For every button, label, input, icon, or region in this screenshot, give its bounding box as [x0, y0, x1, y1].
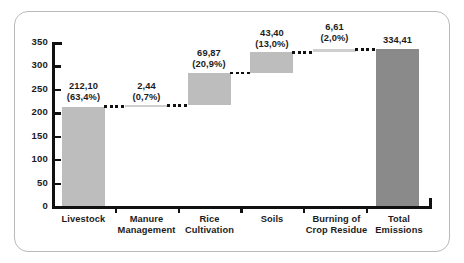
category-label-rice-line1: Rice — [176, 214, 243, 225]
category-label-burning-crop-residue: Burning of Crop Residue — [298, 214, 375, 236]
bar-soils — [250, 52, 293, 72]
bar-livestock — [62, 107, 105, 206]
value-label-burning-value: 6,61 — [325, 22, 344, 32]
category-label-total-line1: Total — [365, 214, 433, 225]
x-axis-end-cap — [429, 198, 432, 208]
y-axis-label-350: 350 — [12, 36, 48, 48]
value-label-burning-crop-residue: 6,61 (2,0%) — [304, 22, 365, 43]
y-tick-300 — [52, 65, 61, 67]
y-axis-label-0: 0 — [12, 200, 48, 212]
y-axis-label-250: 250 — [12, 83, 48, 95]
y-tick-50 — [52, 183, 61, 185]
value-label-livestock-percent: (63,4%) — [53, 92, 114, 103]
value-label-soils-percent: (13,0%) — [242, 39, 303, 50]
category-label-burning-line1: Burning of — [298, 214, 375, 225]
bar-manure-management — [125, 105, 168, 106]
value-label-soils: 43,40 (13,0%) — [242, 28, 303, 49]
category-label-manure-line1: Manure — [110, 214, 183, 225]
category-label-livestock: Livestock — [50, 214, 117, 225]
y-axis-label-50: 50 — [12, 177, 48, 189]
category-label-rice-line2: Cultivation — [176, 225, 243, 236]
value-label-manure-percent: (0,7%) — [116, 92, 177, 103]
value-label-manure-value: 2,44 — [137, 81, 156, 91]
value-label-livestock-value: 212,10 — [69, 81, 98, 91]
bar-total-emissions — [376, 49, 419, 206]
connector-livestock-to-manure — [104, 105, 126, 108]
value-label-livestock: 212,10 (63,4%) — [53, 81, 114, 102]
connector-manure-to-rice — [167, 104, 189, 107]
y-tick-200 — [52, 112, 61, 114]
y-axis-label-100: 100 — [12, 153, 48, 165]
x-tick-3 — [240, 206, 242, 213]
y-axis-label-150: 150 — [12, 130, 48, 142]
y-tick-100 — [52, 159, 61, 161]
x-tick-1 — [115, 206, 117, 213]
y-axis-label-300: 300 — [12, 59, 48, 71]
value-label-rice-value: 69,87 — [197, 48, 221, 58]
category-label-manure-line2: Management — [110, 225, 183, 236]
category-label-livestock-line1: Livestock — [50, 214, 117, 225]
bar-rice-cultivation — [188, 73, 231, 106]
category-label-total-line2: Emissions — [365, 225, 433, 236]
connector-rice-to-soils — [230, 72, 252, 75]
value-label-burning-percent: (2,0%) — [304, 33, 365, 44]
bar-burning-crop-residue — [313, 49, 356, 52]
category-label-burning-line2: Crop Residue — [298, 225, 375, 236]
waterfall-chart: 350 300 250 200 150 100 50 0 212,10 (63,… — [0, 0, 464, 263]
y-tick-150 — [52, 136, 61, 138]
x-tick-4 — [303, 206, 305, 213]
connector-burning-to-total — [355, 48, 377, 51]
value-label-rice-cultivation: 69,87 (20,9%) — [179, 48, 240, 69]
x-tick-2 — [178, 206, 180, 213]
category-label-soils-line1: Soils — [240, 214, 304, 225]
y-tick-350 — [52, 42, 61, 44]
connector-soils-to-burning — [292, 51, 314, 54]
category-label-total-emissions: Total Emissions — [365, 214, 433, 236]
value-label-soils-value: 43,40 — [260, 28, 284, 38]
category-label-soils: Soils — [240, 214, 304, 225]
category-label-rice-cultivation: Rice Cultivation — [176, 214, 243, 236]
category-label-manure-management: Manure Management — [110, 214, 183, 236]
y-axis-label-200: 200 — [12, 106, 48, 118]
value-label-total-emissions: 334,41 — [367, 35, 428, 46]
value-label-total-value: 334,41 — [383, 35, 412, 45]
value-label-rice-percent: (20,9%) — [179, 59, 240, 70]
x-tick-5 — [366, 206, 368, 213]
value-label-manure-management: 2,44 (0,7%) — [116, 81, 177, 102]
